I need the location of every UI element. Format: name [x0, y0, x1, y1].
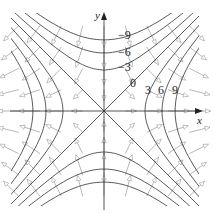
gradient-arrowhead-icon: [183, 125, 188, 129]
level-curve--9: [0, 0, 214, 40]
level-curve-9: [175, 0, 214, 217]
gradient-arrowhead-icon: [77, 41, 81, 46]
gradient-arrowhead-icon: [183, 93, 188, 97]
gradient-arrowhead-icon: [203, 144, 209, 148]
level-label-0: 0: [130, 76, 136, 90]
level-curve--6: [0, 169, 214, 217]
y-axis-arrow-icon: [101, 12, 107, 20]
level-label-neg9: −9: [118, 28, 131, 42]
gradient-arrowhead-icon: [20, 125, 25, 129]
level-label-3: 3: [145, 83, 151, 97]
gradient-arrowhead-icon: [203, 74, 209, 78]
gradient-arrowhead-icon: [2, 162, 7, 167]
y-axis-label: y: [94, 9, 100, 21]
gradient-arrowhead-icon: [0, 109, 2, 113]
level-label-neg6: −6: [118, 45, 131, 59]
x-axis-label: x: [196, 114, 202, 126]
level-label-neg3: −3: [118, 60, 131, 74]
level-label-6: 6: [158, 83, 164, 97]
gradient-arrowhead-icon: [152, 39, 156, 45]
gradient-arrowhead-icon: [2, 55, 7, 60]
gradient-arrowhead-icon: [205, 92, 210, 96]
gradient-arrowhead-icon: [52, 177, 56, 183]
level-label-9: 9: [172, 83, 178, 97]
gradient-arrowhead-icon: [0, 144, 5, 148]
gradient-arrowhead-icon: [127, 176, 131, 181]
gradient-arrowhead-icon: [0, 92, 3, 96]
gradient-arrowhead-icon: [52, 39, 56, 45]
gradient-arrowhead-icon: [20, 93, 25, 97]
gradient-arrowhead-icon: [205, 126, 210, 130]
level-curves: [0, 0, 214, 217]
gradient-arrowhead-icon: [157, 125, 163, 129]
level-curve-diagram: x y −9 −6 −3 0 3 6 9: [0, 0, 214, 217]
gradient-arrowhead-icon: [77, 176, 81, 181]
gradient-arrowhead-icon: [206, 109, 211, 113]
gradient-arrowhead-icon: [46, 125, 52, 129]
gradient-arrowhead-icon: [201, 55, 206, 60]
gradient-arrowhead-icon: [201, 162, 206, 167]
gradient-arrowhead-icon: [0, 74, 5, 78]
gradient-arrowhead-icon: [152, 177, 156, 183]
gradient-arrowhead-icon: [0, 126, 3, 130]
gradient-arrowhead-icon: [46, 93, 52, 97]
